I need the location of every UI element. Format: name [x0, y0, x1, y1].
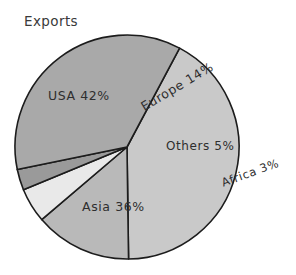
slice-label-asia: Asia 36%	[82, 199, 145, 214]
chart-title: Exports	[24, 13, 78, 29]
slice-label-usa: USA 42%	[48, 88, 110, 103]
pie-chart-svg	[0, 0, 296, 275]
slice-label-others: Others 5%	[166, 139, 235, 153]
pie-chart-figure: Exports USA 42% Europe 14% Others 5% Afr…	[0, 0, 296, 275]
